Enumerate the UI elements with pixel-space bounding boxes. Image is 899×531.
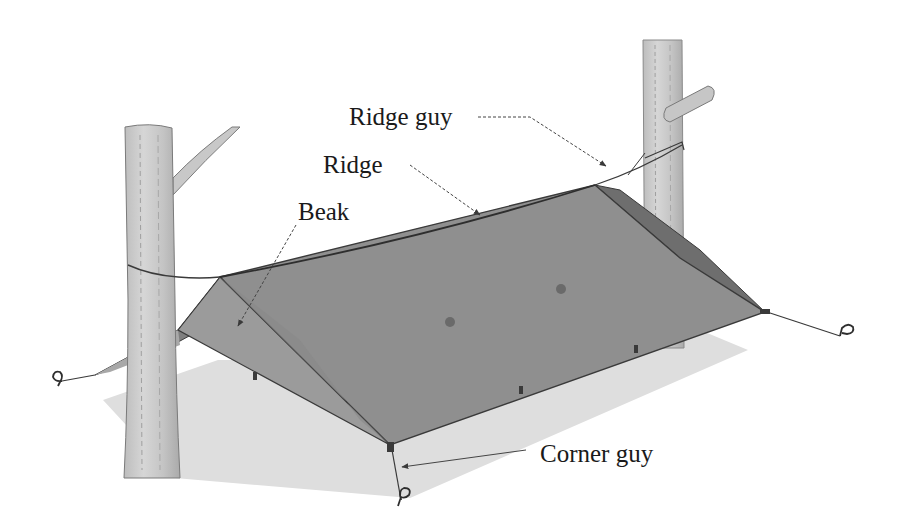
label-ridge-guy: Ridge guy <box>349 104 452 129</box>
pullout-dot <box>445 317 455 327</box>
pullout-dot <box>556 284 566 294</box>
ridge-guy-leader <box>478 117 606 166</box>
tie-out-tab <box>519 386 523 394</box>
corner-guy-left <box>53 372 95 386</box>
label-beak: Beak <box>298 199 349 224</box>
left-tree-branch <box>173 127 240 195</box>
label-ridge: Ridge <box>323 152 383 177</box>
tie-out-tab <box>634 345 638 353</box>
corner-guy-right <box>767 312 853 336</box>
tie-out-tab <box>253 372 257 380</box>
tarp-shelter-diagram <box>0 0 899 531</box>
ridge-leader <box>410 165 480 215</box>
corner-tab <box>760 309 770 314</box>
corner-tab <box>387 442 394 452</box>
label-corner-guy: Corner guy <box>540 441 653 466</box>
